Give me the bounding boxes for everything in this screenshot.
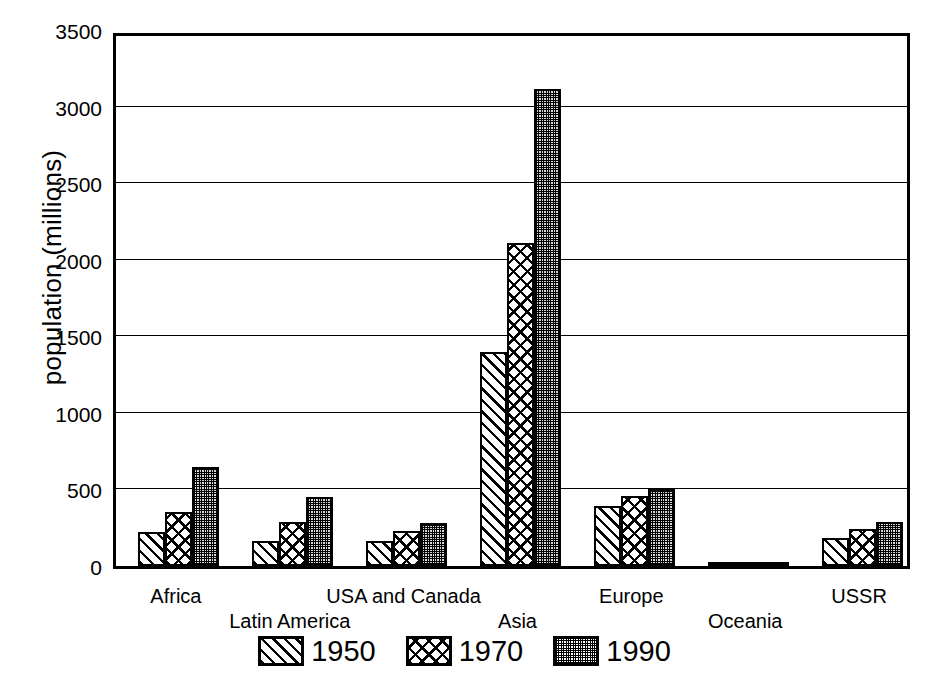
legend-label: 1950 bbox=[311, 637, 376, 666]
bar bbox=[735, 562, 762, 566]
bar-series-container bbox=[116, 36, 907, 566]
bar bbox=[366, 541, 393, 566]
bar bbox=[876, 522, 903, 566]
bar bbox=[393, 531, 420, 566]
bar bbox=[708, 562, 735, 566]
legend-item: 1990 bbox=[553, 636, 671, 666]
bar bbox=[822, 538, 849, 566]
y-tick-label: 2000 bbox=[6, 250, 102, 274]
legend-label: 1990 bbox=[606, 637, 671, 666]
bar bbox=[252, 541, 279, 566]
y-tick-label: 2500 bbox=[6, 173, 102, 197]
bar bbox=[192, 467, 219, 566]
legend-swatch bbox=[258, 636, 304, 666]
y-tick-label: 0 bbox=[6, 556, 102, 580]
x-category-label: Africa bbox=[150, 585, 201, 608]
bar bbox=[594, 506, 621, 566]
bar-chart: population (millions) 050010001500200025… bbox=[0, 0, 929, 681]
legend-item: 1950 bbox=[258, 636, 376, 666]
x-category-label: USA and Canada bbox=[326, 585, 481, 608]
bar bbox=[507, 243, 534, 566]
x-category-label: Europe bbox=[599, 585, 664, 608]
legend-item: 1970 bbox=[406, 636, 524, 666]
bar bbox=[480, 352, 507, 566]
legend-swatch bbox=[406, 636, 452, 666]
x-category-label: USSR bbox=[831, 585, 887, 608]
y-tick-label: 3000 bbox=[6, 97, 102, 121]
bar bbox=[648, 489, 675, 566]
x-category-label: Asia bbox=[498, 610, 537, 633]
y-tick-label: 1000 bbox=[6, 403, 102, 427]
legend-label: 1970 bbox=[459, 637, 524, 666]
legend-swatch bbox=[553, 636, 599, 666]
chart-legend: 195019701990 bbox=[0, 636, 929, 666]
bar bbox=[621, 496, 648, 566]
y-tick-label: 1500 bbox=[6, 326, 102, 350]
bar bbox=[138, 532, 165, 566]
bar bbox=[306, 497, 333, 566]
y-tick-label: 3500 bbox=[6, 20, 102, 44]
plot-area bbox=[113, 33, 910, 569]
bar bbox=[165, 512, 192, 566]
bar bbox=[534, 89, 561, 566]
bar bbox=[279, 522, 306, 566]
bar bbox=[762, 562, 789, 566]
bar bbox=[420, 523, 447, 566]
x-category-label: Latin America bbox=[229, 610, 350, 633]
bar bbox=[849, 529, 876, 566]
y-tick-label: 500 bbox=[6, 479, 102, 503]
x-category-label: Oceania bbox=[708, 610, 783, 633]
